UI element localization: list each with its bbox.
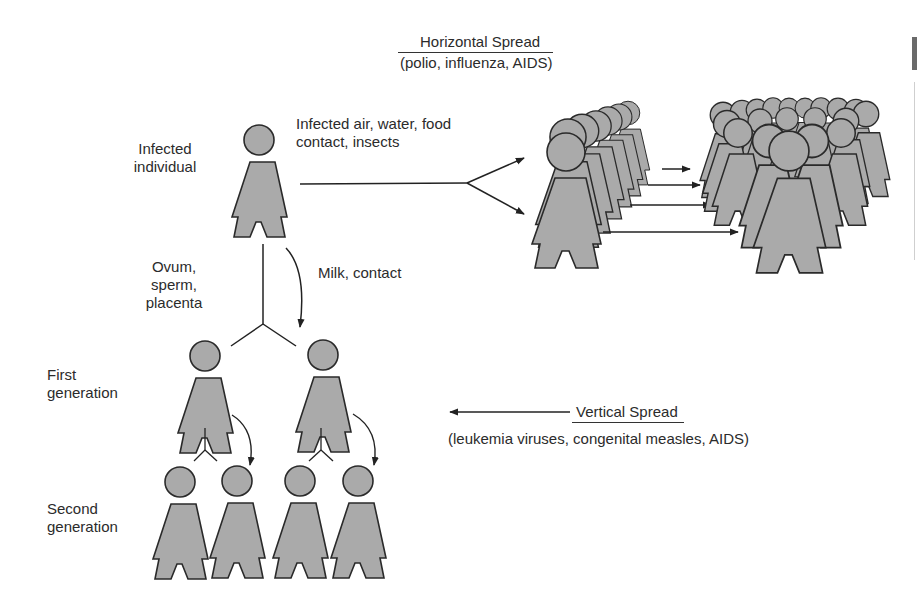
vertical-spread-heading: Vertical Spread [572,403,684,423]
first-generation-label: First generation [47,366,118,402]
germline-connector [231,244,296,346]
second-generation-figures [153,466,386,579]
horizontal-route-arrow [300,158,524,214]
route-label-line1: Infected air, water, food [296,115,451,133]
horizontal-route-label: Infected air, water, food contact, insec… [296,115,451,151]
second-generation-label: Second generation [47,500,118,536]
infected-label-line1: Infected [120,140,210,158]
germline-line1: Ovum, [128,258,220,276]
infected-individual-label: Infected individual [120,140,210,176]
first-generation-figures [178,340,351,453]
germline-line2: sperm, [128,276,220,294]
first-gen-line2: generation [47,384,118,402]
vertical-spread-title: Vertical Spread [572,403,684,423]
germline-line3: placenta [128,294,220,312]
infected-crowd-group [700,98,890,273]
horizontal-spread-heading: Horizontal Spread (polio, influenza, AID… [398,33,553,72]
second-gen-line2: generation [47,518,118,536]
page-edge-tab [912,37,917,70]
vertical-spread-examples: (leukemia viruses, congenital measles, A… [448,430,749,448]
infected-individual-figure [232,125,287,237]
second-gen-line1: Second [47,500,118,518]
germline-label: Ovum, sperm, placenta [128,258,220,312]
milk-contact-arrow [286,248,302,327]
horizontal-spread-title: Horizontal Spread [398,33,553,53]
viral-spread-diagram: Horizontal Spread (polio, influenza, AID… [0,0,917,590]
first-gen-line1: First [47,366,118,384]
route-label-line2: contact, insects [296,133,451,151]
infected-label-line2: individual [120,158,210,176]
infected-file-group [532,101,650,268]
milk-contact-label: Milk, contact [318,264,401,282]
horizontal-spread-examples: (polio, influenza, AIDS) [400,54,553,72]
